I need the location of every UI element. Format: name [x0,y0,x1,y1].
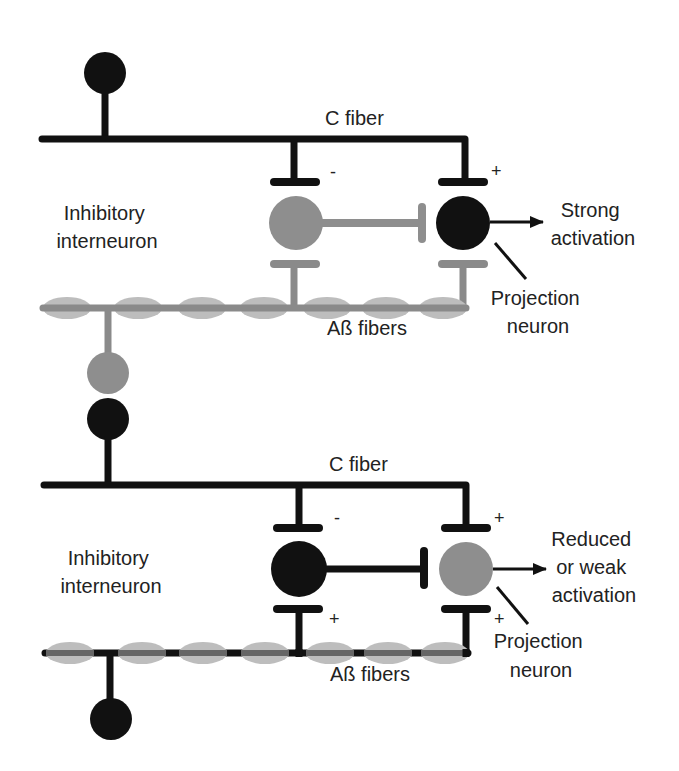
output-label-line1: Strong [561,199,620,221]
projection-label-line2: neuron [510,659,572,681]
interneuron-label: Inhibitory interneuron [56,202,157,252]
output-label-line2: activation [551,227,636,249]
projection-label: Projection neuron [494,630,589,681]
projection-neuron-soma-icon [436,196,490,250]
bottom-panel: C fiber - + Inhibitory interneuron Reduc… [44,398,637,740]
c-fiber-soma-icon [84,52,126,94]
interneuron-soma-icon [269,196,323,250]
projection-c-sign: + [494,508,505,528]
projection-label: Projection neuron [491,287,586,337]
interneuron-c-sign: - [330,162,336,182]
output-label-line1: Reduced [551,528,631,550]
interneuron-label-line1: Inhibitory [64,202,145,224]
output-label-line2: or weak [556,556,627,578]
c-fiber-axon [44,485,466,528]
abeta-label: Aß fibers [327,317,407,339]
projection-abeta-sign: + [494,609,505,629]
interneuron-label: Inhibitory interneuron [60,547,161,597]
interneuron-soma-icon [271,541,327,597]
abeta-soma-icon [87,352,129,394]
output-label-line3: activation [552,584,637,606]
interneuron-label-line2: interneuron [56,230,157,252]
output-label: Reduced or weak activation [551,528,637,606]
projection-label-line1: Projection [494,630,583,652]
top-panel: C fiber - + Inhibitory interneuron Stron… [42,52,635,394]
projection-neuron-soma-icon [439,542,493,596]
output-label: Strong activation [551,199,636,249]
c-fiber-label: C fiber [325,107,384,129]
c-fiber-label: C fiber [329,453,388,475]
projection-label-line2: neuron [507,315,569,337]
interneuron-c-sign: - [334,508,340,528]
c-fiber-soma-icon [87,398,129,440]
abeta-label: Aß fibers [330,663,410,685]
c-fiber-axon [42,139,465,182]
projection-pointer-line [495,243,526,279]
projection-c-sign: + [491,161,502,181]
projection-label-line1: Projection [491,287,580,309]
interneuron-label-line2: interneuron [60,575,161,597]
gate-control-diagram: C fiber - + Inhibitory interneuron Stron… [0,0,679,771]
interneuron-label-line1: Inhibitory [68,547,149,569]
abeta-soma-icon [90,698,132,740]
interneuron-abeta-sign: + [329,609,340,629]
